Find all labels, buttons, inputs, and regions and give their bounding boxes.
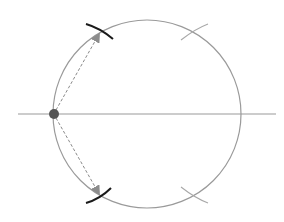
dark-arc-mark-upper [86, 24, 113, 39]
faint-arc-mark-upper-right [181, 24, 208, 40]
compass-construction-diagram [0, 0, 284, 222]
pivot-point-dot [49, 109, 59, 119]
dark-arc-mark-lower [86, 188, 111, 203]
